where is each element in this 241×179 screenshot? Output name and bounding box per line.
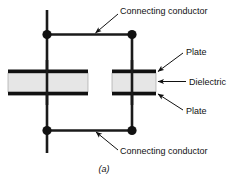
junction-dot-top-right (127, 30, 136, 39)
leader-connecting-conductor-top (96, 14, 119, 33)
leader-plate-top (158, 53, 183, 72)
label-connecting-conductor-bottom: Connecting conductor (120, 146, 208, 156)
diagram-canvas: Connecting conductor Plate Dielectric Pl… (0, 0, 241, 179)
leader-connecting-conductor-bottom (96, 132, 118, 150)
right-capacitor-top-plate (112, 70, 156, 74)
leader-plate-bottom (158, 94, 183, 110)
junction-dot-bottom-right (127, 126, 136, 135)
capacitor-diagram-figure: Connecting conductor Plate Dielectric Pl… (0, 0, 241, 179)
label-plate-bottom: Plate (186, 106, 207, 116)
right-capacitor-dielectric (112, 73, 156, 92)
junction-dot-top-left (42, 30, 51, 39)
right-capacitor (112, 70, 156, 96)
junction-dot-bottom-left (42, 126, 51, 135)
figure-caption: (a) (99, 164, 110, 174)
label-connecting-conductor-top: Connecting conductor (120, 6, 208, 16)
label-plate-top: Plate (186, 47, 207, 57)
right-capacitor-bottom-plate (112, 92, 156, 96)
label-dielectric: Dielectric (189, 77, 227, 87)
